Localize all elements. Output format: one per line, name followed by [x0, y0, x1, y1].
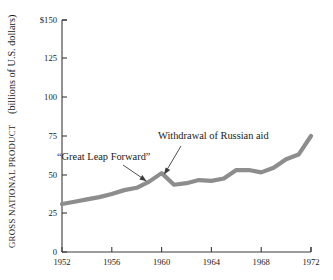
x-tick-label-1972: 1972	[302, 257, 319, 267]
x-tick-label-1956: 1956	[103, 257, 121, 267]
x-tick-label-1968: 1968	[253, 257, 270, 267]
gnp-line-chart: GROSS NATIONAL PRODUCT (billions of U.S.…	[0, 0, 333, 280]
annotation-arrowhead-withdrawal-russian-aid	[164, 167, 170, 174]
y-tick-label-0: 0	[53, 247, 57, 257]
annotation-withdrawal-russian-aid: Withdrawal of Russian aid	[158, 130, 269, 175]
x-tick-label-1964: 1964	[203, 257, 221, 267]
annotation-label-withdrawal-russian-aid: Withdrawal of Russian aid	[158, 130, 269, 141]
gnp-data-line	[62, 136, 311, 204]
y-axis-title: GROSS NATIONAL PRODUCT (billions of U.S.…	[6, 15, 18, 248]
y-tick-label-125: 125	[44, 53, 57, 63]
x-tick-label-1960: 1960	[153, 257, 170, 267]
y-tick-label-50: 50	[48, 170, 57, 180]
y-axis-ticks: $150 125 100 75 50 25 0	[40, 15, 67, 257]
chart-figure: GROSS NATIONAL PRODUCT (billions of U.S.…	[0, 0, 333, 280]
y-axis-title-units: (billions of U.S. dollars)	[6, 15, 18, 114]
x-axis-ticks: 1952 1956 1960 1964 1968 1972	[53, 247, 319, 267]
y-axis-title-smallcaps: GROSS NATIONAL PRODUCT	[7, 124, 17, 248]
y-tick-label-100: 100	[44, 92, 57, 102]
y-tick-label-75: 75	[48, 131, 57, 141]
y-tick-label-150: $150	[40, 15, 57, 25]
annotation-arrowhead-great-leap-forward	[139, 175, 146, 181]
y-tick-label-25: 25	[48, 208, 57, 218]
x-tick-label-1952: 1952	[53, 257, 70, 267]
annotation-great-leap-forward: “Great Leap Forward”	[57, 151, 151, 181]
annotation-label-great-leap-forward: “Great Leap Forward”	[57, 151, 151, 162]
